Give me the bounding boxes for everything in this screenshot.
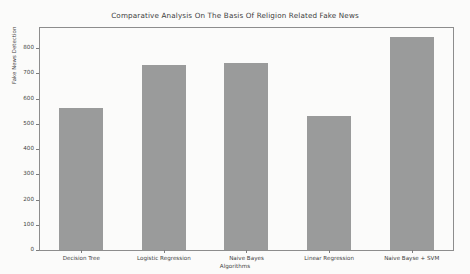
bar-slot <box>40 28 123 250</box>
y-axis-tick-label: 600 <box>23 95 34 101</box>
bar[interactable] <box>142 65 186 250</box>
x-axis-tick: Naive Bayes <box>205 250 288 274</box>
x-axis-tick-mark <box>164 250 165 253</box>
x-axis-tick-label: Naive Bayse + SVM <box>384 255 439 261</box>
y-axis-tick-label: 100 <box>23 221 34 227</box>
plot-area <box>40 28 453 250</box>
bar-slot <box>370 28 453 250</box>
x-axis-tick-label: Logistic Regression <box>137 255 191 261</box>
x-axis-ticks: Decision TreeLogistic RegressionNaive Ba… <box>40 250 453 274</box>
y-axis-tick-label: 500 <box>23 120 34 126</box>
y-axis-ticks: 0100200300400500600700800 <box>0 28 39 250</box>
x-axis-label: Algorithms <box>0 263 470 269</box>
bar[interactable] <box>390 37 434 250</box>
x-axis-tick-mark <box>412 250 413 253</box>
x-axis-tick: Decision Tree <box>40 250 123 274</box>
bar[interactable] <box>59 108 103 250</box>
y-axis-tick-label: 300 <box>23 170 34 176</box>
y-axis-tick-label: 800 <box>23 44 34 50</box>
x-axis-tick-label: Linear Regression <box>304 255 354 261</box>
x-axis-tick: Linear Regression <box>288 250 371 274</box>
y-axis-tick-label: 700 <box>23 69 34 75</box>
x-axis-tick-mark <box>329 250 330 253</box>
bar-slot <box>205 28 288 250</box>
bar-chart-figure: Comparative Analysis On The Basis Of Rel… <box>0 0 470 274</box>
y-axis-tick-label: 0 <box>30 246 34 252</box>
x-axis-tick: Logistic Regression <box>123 250 206 274</box>
bar[interactable] <box>307 116 351 250</box>
bar-slot <box>123 28 206 250</box>
x-axis-tick: Naive Bayse + SVM <box>370 250 453 274</box>
bar-slot <box>288 28 371 250</box>
y-axis-tick-label: 200 <box>23 196 34 202</box>
x-axis-tick-mark <box>246 250 247 253</box>
y-axis-tick-label: 400 <box>23 145 34 151</box>
x-axis-tick-label: Decision Tree <box>63 255 100 261</box>
bar[interactable] <box>224 63 268 250</box>
x-axis-tick-label: Naive Bayes <box>229 255 264 261</box>
chart-title: Comparative Analysis On The Basis Of Rel… <box>0 11 470 20</box>
x-axis-tick-mark <box>81 250 82 253</box>
